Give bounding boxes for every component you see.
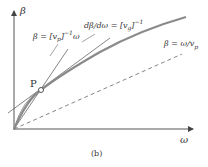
group-lhs: dβ/dω = [v [84, 21, 128, 30]
point-p-label: P [30, 79, 37, 89]
x-axis-label: ω [180, 135, 188, 145]
dashed-line-annotation: β = ω/vp [164, 40, 198, 50]
group-tangent-annotation: dβ/dω = [vg]−1 [84, 19, 143, 31]
dashed-lhs: β = ω/v [164, 39, 194, 48]
group-sup: −1 [134, 18, 143, 25]
leader-phase [50, 44, 58, 56]
phase-line-annotation: β = [vp]−1ω [33, 30, 79, 42]
phase-lhs: β = [v [33, 32, 57, 41]
leader-group [82, 34, 95, 42]
y-axis-label: β [20, 6, 26, 16]
point-p-marker [39, 88, 44, 93]
phase-tail: ω [73, 32, 80, 41]
phase-sup: −1 [64, 29, 73, 36]
group-velocity-tangent [8, 38, 110, 113]
dashed-sub: p [194, 43, 198, 50]
figure-caption: (b) [91, 150, 102, 158]
dispersion-diagram: β ω P (b) β = [vp]−1ω dβ/dω = [vg]−1 β =… [0, 0, 208, 167]
